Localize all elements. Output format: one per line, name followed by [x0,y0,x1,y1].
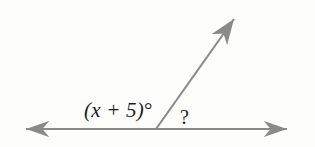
angle-diagram: (x + 5)° ? [0,0,315,147]
degree-symbol: ° [144,98,153,122]
angle-expression-label: (x + 5)° [84,100,153,121]
diagram-canvas [0,0,315,147]
angle-expression-text: (x + 5) [84,98,144,122]
upward-ray [156,19,234,129]
unknown-angle-label: ? [180,107,189,127]
